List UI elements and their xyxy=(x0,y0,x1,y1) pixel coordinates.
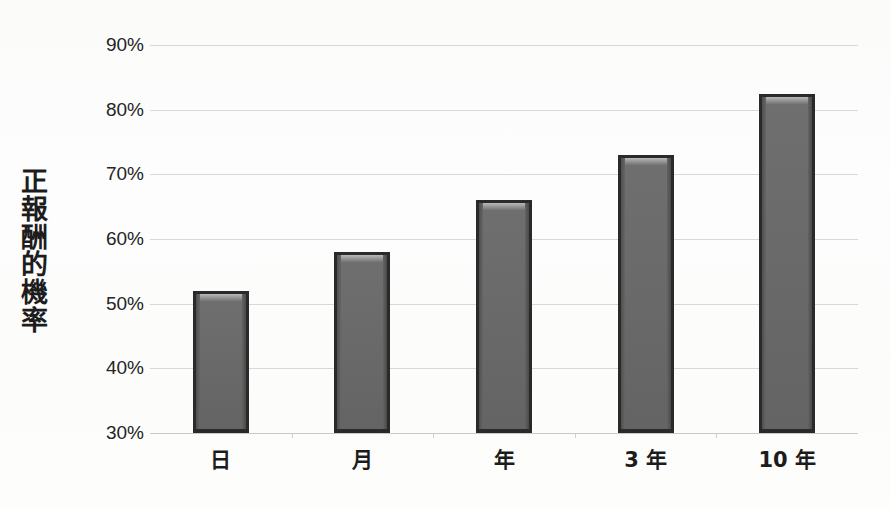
bar-3 年[interactable] xyxy=(618,155,674,433)
bevel-right-highlight xyxy=(667,158,671,429)
x-tick-mark xyxy=(433,433,434,438)
bevel-top-highlight xyxy=(479,203,529,210)
gridline-90 xyxy=(150,45,858,46)
gridline-80 xyxy=(150,110,858,111)
bevel-top-highlight xyxy=(337,255,387,262)
bevel-right-highlight xyxy=(383,255,387,429)
y-axis-title-char: 率 xyxy=(14,307,54,335)
x-tick-mark xyxy=(575,433,576,438)
bevel-left-highlight xyxy=(196,294,200,429)
y-tick-label-90: 90% xyxy=(82,34,144,56)
y-axis-tick-labels: 90%80%70%60%50%40%30% xyxy=(82,45,144,433)
bevel-right-highlight xyxy=(525,203,529,429)
y-tick-label-60: 60% xyxy=(82,228,144,250)
x-tick-mark xyxy=(292,433,293,438)
x-label-月: 月 xyxy=(352,443,373,473)
bevel-right-highlight xyxy=(808,97,812,430)
bar-年[interactable] xyxy=(476,200,532,433)
cut-off-title-remnant: · · · · · · · · · · xyxy=(126,0,726,3)
bevel-top-highlight xyxy=(621,158,671,165)
bevel-left-highlight xyxy=(621,158,625,429)
y-axis-title-char: 酬 xyxy=(14,224,54,252)
y-axis-title: 正 報 酬 的 機 率 xyxy=(14,168,54,335)
x-tick-mark xyxy=(716,433,717,438)
bevel-top-highlight xyxy=(196,294,246,301)
bevel-left-highlight xyxy=(762,97,766,430)
x-axis-tick-labels: 日月年3 年10 年 xyxy=(150,443,858,483)
x-label-3 年: 3 年 xyxy=(624,443,667,473)
bar-日[interactable] xyxy=(193,291,249,433)
bar-月[interactable] xyxy=(334,252,390,433)
y-tick-label-50: 50% xyxy=(82,293,144,315)
plot-area xyxy=(150,45,858,433)
gridline-70 xyxy=(150,174,858,175)
bevel-left-highlight xyxy=(337,255,341,429)
y-axis-title-char: 報 xyxy=(14,196,54,224)
y-tick-label-30: 30% xyxy=(82,422,144,444)
y-axis-title-char: 機 xyxy=(14,279,54,307)
x-label-10 年: 10 年 xyxy=(758,443,816,473)
y-tick-label-40: 40% xyxy=(82,357,144,379)
x-label-日: 日 xyxy=(210,443,231,473)
x-label-年: 年 xyxy=(494,443,515,473)
chart-page: · · · · · · · · · · 正 報 酬 的 機 率 90%80%70… xyxy=(0,0,890,509)
bevel-top-highlight xyxy=(762,97,812,104)
gridline-30 xyxy=(150,433,858,434)
y-axis-title-char: 正 xyxy=(14,168,54,196)
bevel-left-highlight xyxy=(479,203,483,429)
y-tick-label-80: 80% xyxy=(82,99,144,121)
y-axis-title-char: 的 xyxy=(14,251,54,279)
y-tick-label-70: 70% xyxy=(82,163,144,185)
bevel-right-highlight xyxy=(242,294,246,429)
bar-10 年[interactable] xyxy=(759,94,815,434)
